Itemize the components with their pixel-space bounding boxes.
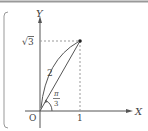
x-axis-label: X xyxy=(134,106,143,117)
point-p xyxy=(78,39,82,43)
angle-denominator: 3 xyxy=(54,100,58,108)
origin-label: O xyxy=(29,113,36,123)
angle-numerator: π xyxy=(53,90,59,98)
y-axis-label: Y xyxy=(36,8,44,19)
x-tick-label: 1 xyxy=(77,113,83,123)
x-axis-arrow-icon xyxy=(126,109,133,113)
y-tick-label: 3 xyxy=(28,37,34,47)
polar-diagram: Y X O 1 √ 3 2 π 3 xyxy=(0,0,148,131)
segment-length-label: 2 xyxy=(47,68,53,78)
left-bracket xyxy=(4,12,8,128)
